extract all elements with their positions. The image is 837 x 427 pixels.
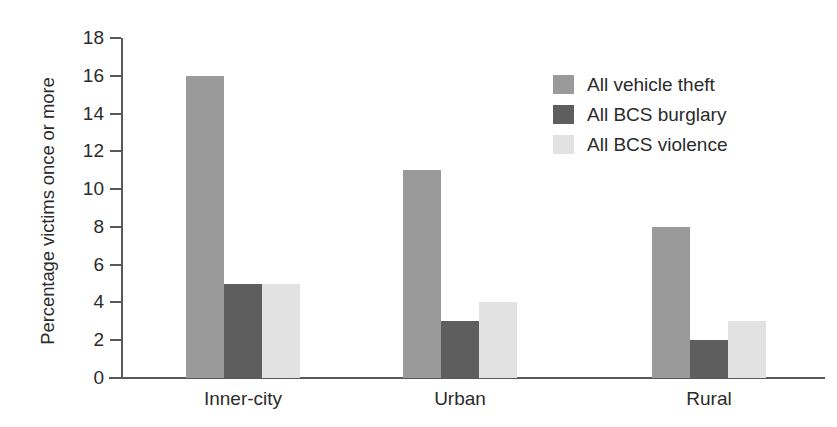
legend-label: All BCS burglary <box>587 105 726 124</box>
chart-legend: All vehicle theftAll BCS burglaryAll BCS… <box>553 71 727 161</box>
bar-inner-city-all-vehicle-theft <box>186 76 224 378</box>
bar-urban-all-vehicle-theft <box>403 170 441 378</box>
legend-swatch-bcs-violence <box>553 135 574 154</box>
bar-inner-city-all-bcs-burglary <box>224 284 262 378</box>
y-axis-tick-label-wrap: 0 <box>52 368 104 387</box>
y-axis-tick-label: 10 <box>60 179 104 198</box>
bar-rural-all-bcs-violence <box>728 321 766 378</box>
y-axis-tick-label: 2 <box>60 330 104 349</box>
y-axis-tick-label-wrap: 8 <box>52 217 104 236</box>
y-axis-tick-label-wrap: 10 <box>52 179 104 198</box>
y-axis-tick <box>110 37 121 39</box>
bar-urban-all-bcs-burglary <box>441 321 479 378</box>
legend-label: All BCS violence <box>587 135 727 154</box>
y-axis-tick <box>110 75 121 77</box>
bar-rural-all-bcs-burglary <box>690 340 728 378</box>
legend-label: All vehicle theft <box>587 75 715 94</box>
y-axis-tick-label: 16 <box>60 66 104 85</box>
y-axis-tick-label-wrap: 12 <box>52 141 104 160</box>
y-axis-tick <box>110 226 121 228</box>
y-axis-tick-label: 12 <box>60 141 104 160</box>
bar-rural-all-vehicle-theft <box>652 227 690 378</box>
legend-item: All vehicle theft <box>553 71 727 97</box>
y-axis-tick <box>110 377 121 379</box>
y-axis-tick <box>110 150 121 152</box>
y-axis-tick-label-wrap: 16 <box>52 66 104 85</box>
legend-swatch-vehicle-theft <box>553 75 574 94</box>
y-axis-line <box>121 38 123 379</box>
y-axis-tick-label-wrap: 18 <box>52 28 104 47</box>
y-axis-tick <box>110 264 121 266</box>
bar-urban-all-bcs-violence <box>479 302 517 378</box>
y-axis-tick-label: 0 <box>60 368 104 387</box>
legend-swatch-bcs-burglary <box>553 105 574 124</box>
y-axis-tick-label-wrap: 4 <box>52 292 104 311</box>
legend-item: All BCS violence <box>553 131 727 157</box>
legend-item: All BCS burglary <box>553 101 727 127</box>
y-axis-tick-label: 8 <box>60 217 104 236</box>
y-axis-tick-label: 14 <box>60 104 104 123</box>
bar-inner-city-all-bcs-violence <box>262 284 300 378</box>
y-axis-tick <box>110 113 121 115</box>
bar-chart: Percentage victims once or more 02468101… <box>0 0 837 427</box>
x-axis-label-rural: Rural <box>612 388 806 410</box>
y-axis-tick <box>110 188 121 190</box>
x-axis-label-inner-city: Inner-city <box>146 388 340 410</box>
y-axis-tick-label: 18 <box>60 28 104 47</box>
y-axis-tick-label-wrap: 6 <box>52 255 104 274</box>
y-axis-tick-label-wrap: 2 <box>52 330 104 349</box>
y-axis-tick <box>110 339 121 341</box>
y-axis-tick-label: 4 <box>60 292 104 311</box>
x-axis-label-urban: Urban <box>363 388 557 410</box>
y-axis-tick-label-wrap: 14 <box>52 104 104 123</box>
y-axis-tick-label: 6 <box>60 255 104 274</box>
y-axis-tick <box>110 301 121 303</box>
